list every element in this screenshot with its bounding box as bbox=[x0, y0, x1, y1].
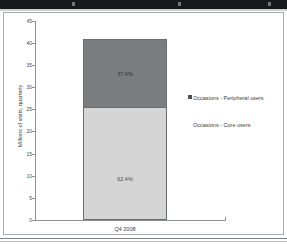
legend-swatch-icon bbox=[188, 122, 192, 126]
screenshot-page: 45 40 35 30 25 20 15 bbox=[0, 0, 287, 245]
bar-label-core-pct: 62.4% bbox=[84, 176, 166, 182]
scan-speck bbox=[178, 2, 181, 6]
y-tick-label-0: 0 bbox=[10, 218, 32, 223]
y-axis-title: Millions of visits, quarterly bbox=[17, 61, 23, 171]
y-tick-label-10: 10 bbox=[10, 174, 32, 179]
page-divider-rule-secondary bbox=[0, 241, 287, 242]
chart-legend: Occasions - Peripheral users Occasions -… bbox=[188, 94, 283, 148]
y-tick-30 bbox=[32, 87, 36, 88]
bar-segment-core-users[interactable]: 62.4% bbox=[83, 107, 167, 220]
x-axis-end-tick bbox=[225, 217, 226, 221]
legend-swatch-icon bbox=[188, 95, 192, 99]
y-tick-0 bbox=[32, 220, 36, 221]
y-tick-5 bbox=[32, 198, 36, 199]
bar-label-peripheral-pct: 37.4% bbox=[84, 71, 166, 77]
y-tick-label-5: 5 bbox=[10, 196, 32, 201]
scan-band-top bbox=[0, 0, 287, 9]
y-axis-line bbox=[35, 21, 36, 221]
y-tick-20 bbox=[32, 131, 36, 132]
y-tick-label-45: 45 bbox=[10, 19, 32, 24]
scan-band-shadow bbox=[0, 9, 287, 11]
legend-item-peripheral-users[interactable]: Occasions - Peripheral users bbox=[188, 94, 283, 104]
x-axis-line bbox=[35, 220, 225, 221]
legend-label-peripheral-users: Occasions - Peripheral users bbox=[193, 95, 264, 101]
plot-area: 45 40 35 30 25 20 15 bbox=[4, 13, 285, 236]
y-tick-10 bbox=[32, 176, 36, 177]
legend-label-core-users: Occasions - Core users bbox=[193, 122, 250, 128]
y-tick-40 bbox=[32, 43, 36, 44]
y-tick-45 bbox=[32, 21, 36, 22]
y-tick-15 bbox=[32, 154, 36, 155]
chart-container: 45 40 35 30 25 20 15 bbox=[3, 12, 284, 235]
x-category-label: Q4 2008 bbox=[83, 226, 167, 232]
scan-speck bbox=[268, 2, 271, 6]
y-tick-label-40: 40 bbox=[10, 41, 32, 46]
scan-speck bbox=[72, 2, 75, 6]
y-tick-25 bbox=[32, 109, 36, 110]
page-divider-rule bbox=[0, 238, 287, 239]
bar-segment-peripheral-users[interactable]: 37.4% bbox=[83, 39, 167, 108]
y-tick-35 bbox=[32, 65, 36, 66]
legend-item-core-users[interactable]: Occasions - Core users bbox=[188, 121, 283, 131]
